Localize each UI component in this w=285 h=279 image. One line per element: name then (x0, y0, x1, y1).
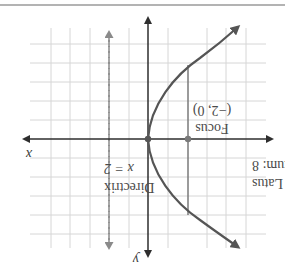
vertex-point (145, 136, 151, 142)
directrix-equation: x = 2 (104, 161, 135, 176)
y-axis-label: y (132, 252, 141, 267)
x-axis-label: x (25, 147, 33, 162)
focus-title: Focus (195, 121, 228, 136)
focus-point (185, 136, 191, 142)
directrix-title: Directrix (104, 180, 155, 195)
focus-coords: (−2, 0) (193, 102, 232, 118)
parabola-curve-lower (148, 139, 238, 247)
parabola-diagram: x y Focus (−2, 0) Latus rectum: 8 Direct… (0, 0, 285, 279)
latus-rectum-title: Latus (252, 176, 283, 191)
latus-rectum-value: rectum: 8 (252, 158, 285, 173)
